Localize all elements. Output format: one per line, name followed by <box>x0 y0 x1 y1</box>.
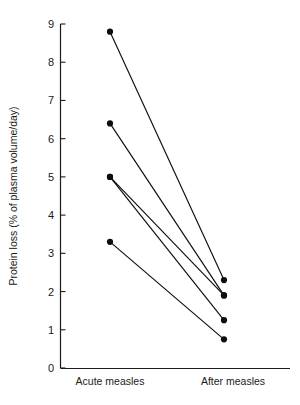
x-category-label-acute-measles: Acute measles <box>76 375 145 387</box>
y-tick-label-4: 4 <box>48 209 54 221</box>
y-tick-label-3: 3 <box>48 247 54 259</box>
y-tick-label-1: 1 <box>48 324 54 336</box>
y-axis-title: Protein loss (% of plasma volume/day) <box>7 106 19 285</box>
chart-canvas: Protein loss (% of plasma volume/day) 0 … <box>0 0 300 405</box>
x-category-label-after-measles: After measles <box>201 375 265 387</box>
data-point-marker <box>107 239 113 245</box>
data-point-marker <box>107 29 113 35</box>
y-tick-label-9: 9 <box>48 18 54 30</box>
data-point-marker <box>107 174 113 180</box>
data-point-marker <box>107 120 113 126</box>
y-tick-label-2: 2 <box>48 286 54 298</box>
y-tick-label-8: 8 <box>48 56 54 68</box>
chart-background <box>0 0 300 405</box>
data-point-marker <box>221 277 227 283</box>
y-tick-label-7: 7 <box>48 94 54 106</box>
data-point-marker <box>221 317 227 323</box>
paired-line-chart: Protein loss (% of plasma volume/day) 0 … <box>0 0 300 405</box>
y-tick-label-5: 5 <box>48 171 54 183</box>
data-point-marker <box>221 292 227 298</box>
data-point-marker <box>221 336 227 342</box>
y-tick-label-6: 6 <box>48 133 54 145</box>
y-tick-label-0: 0 <box>48 362 54 374</box>
